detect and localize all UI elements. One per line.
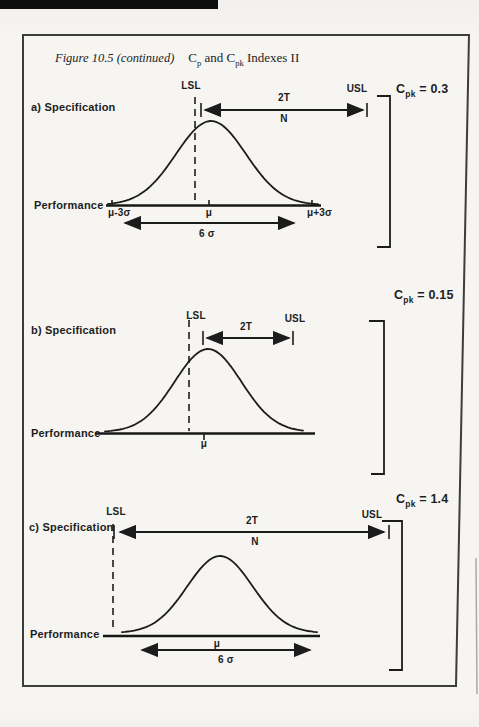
diagram-a-usl-label: USL (347, 83, 368, 94)
cpk-symbol: C (394, 288, 403, 302)
diagram-c-lsl-label: LSL (106, 506, 126, 517)
figure-title-part: C (227, 50, 236, 65)
range-bracket-a (377, 96, 390, 247)
range-bracket-b (369, 321, 384, 474)
diagram-b-tolerance-label: 2T (240, 321, 252, 332)
figure-title-part: C (188, 50, 197, 65)
cpk-value: = 0.15 (414, 288, 454, 302)
figure-title-part: Indexes II (244, 50, 300, 65)
cpk-subscript: pk (405, 499, 415, 509)
gaussian-curve-c (122, 556, 317, 632)
diagram-a-tolerance-label: 2T (278, 92, 290, 103)
diagram-c-nominal-label: N (251, 536, 258, 547)
figure-title: Cp and Cpk Indexes II (188, 50, 299, 65)
diagram-b-lsl-label: LSL (186, 310, 206, 321)
diagram-c-performance-label: Performance (30, 628, 99, 640)
cpk-subscript: pk (403, 295, 413, 305)
cpk-subscript: pk (405, 89, 415, 99)
diagram-c-spec-label: c) Specification (29, 521, 114, 533)
diagram-a-lsl-label: LSL (181, 80, 201, 91)
diagram-c-cpk-label: Cpk = 1.4 (396, 492, 448, 509)
diagram-c-usl-label: USL (362, 509, 383, 520)
diagram-b-mu-label: μ (201, 438, 207, 449)
figure-number: Figure 10.5 (continued) (55, 51, 174, 65)
diagram-c-six-sigma-label: 6 σ (218, 654, 234, 665)
diagram-b-spec-label: b) Specification (31, 324, 116, 336)
diagram-a-mu-plus-label: μ+3σ (307, 207, 332, 218)
diagram-a-mu-label: μ (206, 207, 212, 218)
cpk-symbol: C (396, 492, 405, 506)
diagram-a-spec-label: a) Specification (31, 101, 116, 113)
diagram-a-cpk-label: Cpk = 0.3 (396, 82, 448, 99)
diagram-a-performance-label: Performance (34, 199, 103, 211)
cpk-value: = 0.3 (416, 82, 449, 96)
diagram-c-tolerance-label: 2T (246, 515, 258, 526)
diagram-b-cpk-label: Cpk = 0.15 (394, 288, 454, 305)
diagram-b-performance-label: Performance (31, 427, 100, 439)
page-edge-shadow (476, 558, 477, 694)
figure-caption: Figure 10.5 (continued)Cp and Cpk Indexe… (55, 50, 299, 68)
diagram-a-six-sigma-label: 6 σ (199, 228, 215, 239)
figure-title-part: and (201, 50, 226, 65)
diagram-a-mu-minus-label: μ-3σ (108, 207, 131, 218)
figure-title-sub: pk (235, 58, 244, 68)
diagram-a-nominal-label: N (280, 113, 287, 124)
cpk-value: = 1.4 (416, 492, 449, 506)
cpk-symbol: C (396, 82, 405, 96)
diagram-c-mu-label: μ (214, 638, 220, 649)
scanned-figure-page: Figure 10.5 (continued)Cp and Cpk Indexe… (0, 0, 479, 727)
gaussian-curve-b (105, 349, 303, 431)
diagram-b-usl-label: USL (285, 313, 306, 324)
range-bracket-c (382, 521, 402, 670)
gaussian-curve-a (108, 121, 318, 204)
